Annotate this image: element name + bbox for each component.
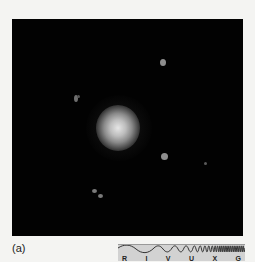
astronomical-image — [12, 19, 243, 236]
band-label: I — [145, 255, 147, 262]
band-label: X — [212, 255, 217, 262]
band-label: V — [166, 255, 171, 262]
point-source — [77, 95, 80, 98]
band-label: G — [236, 255, 241, 262]
point-source — [160, 59, 166, 66]
panel-label: (a) — [12, 242, 25, 254]
band-label: R — [122, 255, 127, 262]
point-source — [98, 194, 103, 198]
point-source — [92, 189, 97, 193]
point-source — [204, 162, 207, 165]
spectrum-bar: R I V U X G — [118, 244, 245, 261]
point-source — [161, 153, 168, 160]
wave-icon — [118, 245, 245, 255]
spectrum-band-labels: R I V U X G — [118, 255, 245, 262]
band-label: U — [189, 255, 194, 262]
central-galaxy — [96, 105, 140, 151]
